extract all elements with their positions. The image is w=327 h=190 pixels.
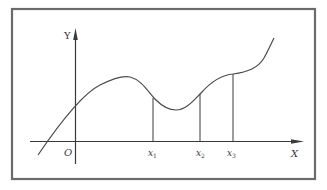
origin-label: O <box>64 147 72 158</box>
function-curve <box>38 38 274 155</box>
diagram-frame <box>12 9 315 179</box>
y-axis-label: Y <box>63 30 71 41</box>
y-axis-arrow-icon <box>73 28 78 40</box>
x-axis-label: X <box>290 148 299 159</box>
function-graph-diagram: Y O X x1 x2 x3 <box>0 0 327 190</box>
x-axis-arrow-icon <box>291 139 304 144</box>
x2-label: x2 <box>196 148 205 159</box>
x1-label: x1 <box>148 148 157 159</box>
x3-label: x3 <box>227 148 236 159</box>
